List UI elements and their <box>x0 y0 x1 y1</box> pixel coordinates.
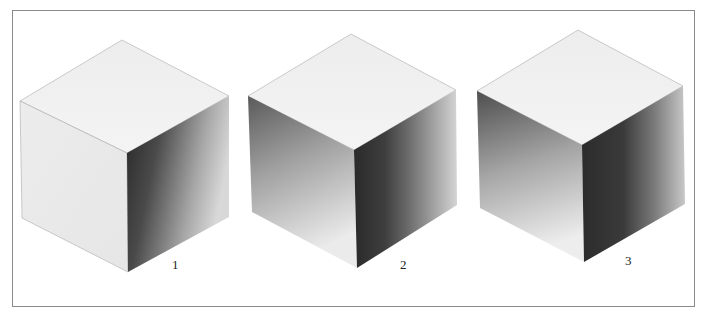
cube-1 <box>20 40 229 272</box>
cubes-diagram <box>0 0 703 318</box>
cube-3-label: 3 <box>625 253 632 269</box>
cube-2-label: 2 <box>400 257 407 273</box>
cube-2 <box>248 34 457 268</box>
cube-3 <box>477 30 685 262</box>
cube-1-label: 1 <box>172 257 179 273</box>
